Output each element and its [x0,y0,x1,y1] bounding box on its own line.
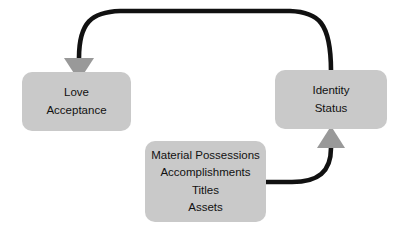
identity-status-node-line-1: Identity [312,85,349,97]
love-acceptance-node-line-1: Love [64,87,89,99]
assets-to-identity-arrow-line [264,148,331,182]
love-acceptance-node-line-2: Acceptance [46,105,106,117]
material-possessions-node-line-2: Accomplishments [160,167,250,179]
love-acceptance-node: Love Acceptance [22,72,131,131]
assets-to-identity-arrow [264,126,345,182]
material-possessions-node: Material Possessions Accomplishments Tit… [145,141,266,222]
material-possessions-node-line-4: Assets [188,202,223,214]
material-possessions-node-line-3: Titles [192,185,219,197]
material-possessions-node-line-1: Material Possessions [151,150,260,162]
assets-to-identity-arrowhead-icon [317,126,345,148]
diagram-canvas: Love Acceptance Identity Status Material… [0,0,409,239]
identity-to-love-arrow-line [79,11,331,71]
identity-status-node: Identity Status [275,70,387,129]
identity-status-node-line-2: Status [315,103,348,115]
